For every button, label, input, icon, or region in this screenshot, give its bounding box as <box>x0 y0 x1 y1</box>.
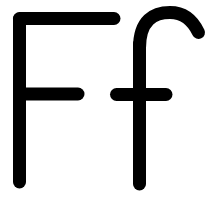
ff-glyph-artwork <box>0 0 211 199</box>
letter-card-ff: Ff <box>0 0 211 199</box>
